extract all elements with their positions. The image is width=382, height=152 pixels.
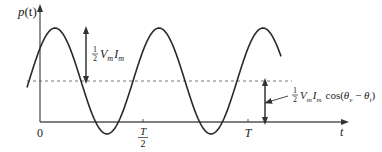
svg-text:2: 2 (141, 138, 146, 149)
x-axis-label: t (340, 125, 344, 139)
instantaneous-power-diagram: p(t) 1 2 VmIm 1 2 VmImcos(θv − θi) 0 T 2… (0, 0, 382, 152)
amplitude-label: 1 2 VmIm (92, 45, 124, 63)
y-axis-label: p(t) (17, 4, 37, 19)
svg-text:VmImcos(θv − θi): VmImcos(θv − θi) (300, 89, 375, 104)
svg-text:T: T (140, 125, 147, 137)
tick-label-half-period: T 2 (138, 125, 148, 149)
svg-text:2: 2 (93, 54, 97, 63)
svg-text:1: 1 (293, 86, 297, 95)
average-power-label: 1 2 VmImcos(θv − θi) (292, 86, 375, 104)
svg-text:1: 1 (93, 45, 97, 54)
svg-text:VmIm: VmIm (100, 47, 124, 63)
tick-label-zero: 0 (37, 126, 43, 140)
svg-text:2: 2 (293, 95, 297, 104)
average-leader-line (268, 96, 288, 102)
tick-label-period: T (245, 126, 253, 140)
